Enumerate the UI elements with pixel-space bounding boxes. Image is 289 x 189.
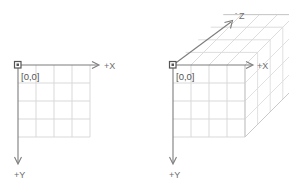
coordinate-systems-figure: +X +Y [0,0]: [0, 0, 289, 189]
diagram-3d: +X +Y - Z [0,0]: [145, 0, 289, 189]
axis-z-3d: [173, 21, 233, 66]
cube-top-face-grid: [186, 15, 289, 65]
axis-x-label-3d: +X: [257, 61, 268, 71]
axis-x-3d: [173, 62, 253, 69]
diagram-2d: +X +Y [0,0]: [0, 0, 145, 189]
origin-label-2d: [0,0]: [21, 71, 40, 82]
axis-x-2d: [18, 62, 99, 69]
axis-x-label-2d: +X: [104, 61, 115, 71]
axis-y-label-3d: +Y: [169, 170, 180, 180]
origin-marker-dot-3d: [172, 64, 175, 67]
origin-label-3d: [0,0]: [176, 71, 195, 82]
axis-y-label-2d: +Y: [14, 170, 25, 180]
axis-z-label-sign: -: [235, 9, 237, 16]
axis-z-label-letter: Z: [239, 11, 245, 21]
origin-marker-dot-2d: [17, 64, 20, 67]
cube-right-face-grid: [245, 15, 289, 137]
